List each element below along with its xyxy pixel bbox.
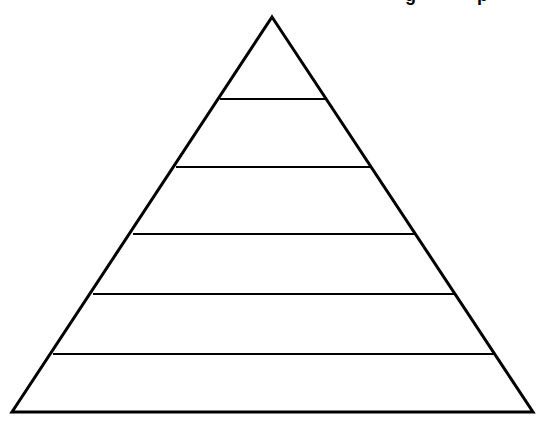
pyramid-diagram: [0, 0, 547, 426]
pyramid-outline: [12, 17, 533, 412]
tier-dividers: [53, 99, 494, 354]
